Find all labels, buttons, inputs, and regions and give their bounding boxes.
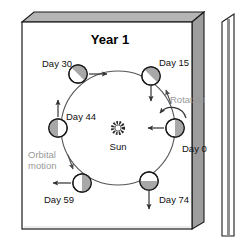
- panel-right-side: [192, 12, 204, 229]
- rotation-label: Rotation: [170, 94, 205, 105]
- planet-label-day-0: Day 0: [182, 143, 207, 154]
- planet-label-day-74: Day 74: [159, 194, 189, 205]
- sun-label: Sun: [110, 141, 127, 152]
- orbital-motion-label-line2: motion: [28, 160, 57, 171]
- planet-label-day-44: Day 44: [66, 111, 96, 122]
- orbit-diagram-figure: Sun Day 0 Rotation Day 15: [0, 0, 235, 240]
- background-panel-sliver: [222, 14, 234, 236]
- figure-title: Year 1: [91, 32, 129, 47]
- planet-label-day-30: Day 30: [42, 58, 72, 69]
- diagram-canvas: Sun Day 0 Rotation Day 15: [0, 0, 235, 240]
- panel-top-bevel: [22, 12, 204, 22]
- planet-label-day-59: Day 59: [44, 194, 74, 205]
- orbital-motion-label-line1: Orbital: [28, 149, 56, 160]
- planet-label-day-15: Day 15: [159, 57, 189, 68]
